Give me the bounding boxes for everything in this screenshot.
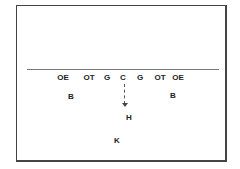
player-h: H [126, 113, 132, 122]
snap-path-line [124, 84, 126, 104]
player-b-left: B [68, 92, 74, 101]
player-g-left: G [104, 73, 110, 82]
diagram-frame [16, 5, 227, 162]
player-g-right: G [137, 73, 143, 82]
player-c: C [120, 73, 126, 82]
player-b-right: B [170, 91, 176, 100]
arrowhead-icon [122, 103, 128, 107]
player-ot-left: OT [83, 73, 94, 82]
player-oe-left: OE [57, 73, 69, 82]
player-k: K [114, 136, 120, 145]
line-of-scrimmage [27, 69, 219, 70]
player-ot-right: OT [154, 73, 165, 82]
player-oe-right: OE [172, 73, 184, 82]
